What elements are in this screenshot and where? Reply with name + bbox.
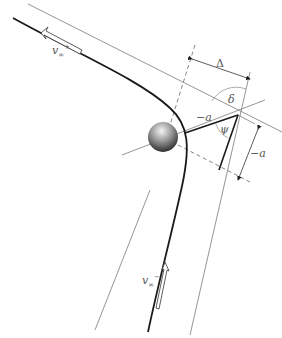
outgoing-asymptote: [28, 4, 282, 132]
planet-parallel-line: [95, 190, 150, 330]
flyby-diagram: v∞+ v∞− Δ δ ψ −a −a: [0, 0, 282, 338]
diagram-canvas: [0, 0, 282, 338]
label-Delta: Δ: [216, 58, 224, 69]
asymptote-extension: [238, 115, 255, 124]
label-minus-a-top: −a: [196, 112, 212, 123]
label-v-out: v∞+: [52, 44, 70, 59]
label-minus-a-right: −a: [250, 148, 266, 159]
planet: [148, 122, 178, 152]
apse-line: [122, 100, 265, 155]
label-v-in: v∞−: [142, 274, 160, 289]
label-delta: δ: [228, 94, 235, 105]
label-psi: ψ: [220, 124, 229, 135]
